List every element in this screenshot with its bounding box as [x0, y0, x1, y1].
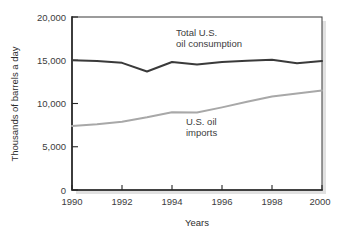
y-tick-label-20000: 20,000: [37, 12, 66, 23]
y-axis-tick-labels: 20,000 15,000 10,000 5,000 0: [37, 12, 66, 196]
y-tick-label-10000: 10,000: [37, 98, 66, 109]
y-axis-title: Thousands of barrels a day: [9, 46, 20, 161]
y-tick-label-15000: 15,000: [37, 55, 66, 66]
x-tick-label-1992: 1992: [111, 196, 132, 207]
imports-label-line2: imports: [186, 127, 217, 138]
consumption-label-line1: Total U.S.: [176, 27, 217, 38]
imports-annotation: U.S. oil imports: [186, 116, 217, 138]
chart-container: 20,000 15,000 10,000 5,000 0 1990 1992 1…: [0, 0, 353, 237]
imports-label-line1: U.S. oil: [186, 116, 217, 127]
x-axis-tick-labels: 1990 1992 1994 1996 1998 2000: [61, 196, 330, 207]
consumption-label-line2: oil consumption: [176, 38, 242, 49]
line-chart: 20,000 15,000 10,000 5,000 0 1990 1992 1…: [0, 0, 353, 237]
x-tick-label-1990: 1990: [61, 196, 82, 207]
x-tick-label-1998: 1998: [261, 196, 282, 207]
x-tick-label-1994: 1994: [161, 196, 182, 207]
y-tick-label-5000: 5,000: [42, 141, 66, 152]
x-tick-label-1996: 1996: [211, 196, 232, 207]
y-tick-label-0: 0: [61, 185, 66, 196]
x-tick-label-2000: 2000: [309, 196, 330, 207]
x-axis-title: Years: [185, 217, 209, 228]
